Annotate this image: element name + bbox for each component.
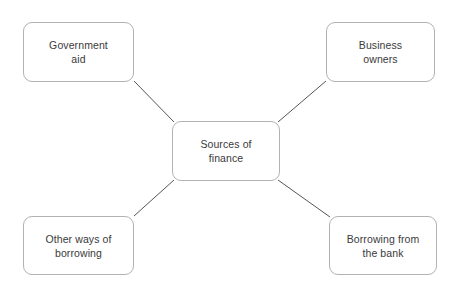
node-borrowing-from-the-bank-label: Borrowing from the bank xyxy=(343,232,424,260)
node-other-ways-of-borrowing-label: Other ways of borrowing xyxy=(41,232,115,260)
connector-center-other-borrowing xyxy=(134,180,174,216)
node-center-label: Sources of finance xyxy=(196,137,255,165)
connector-center-business-owners xyxy=(278,81,326,122)
connector-center-government-aid xyxy=(134,81,174,122)
node-government-aid-label: Government aid xyxy=(45,38,112,66)
node-business-owners-label: Business owners xyxy=(355,38,406,66)
sources-of-finance-diagram: Government aid Business owners Sources o… xyxy=(0,0,457,291)
connector-center-bank-borrowing xyxy=(278,180,330,217)
node-government-aid[interactable]: Government aid xyxy=(23,22,134,82)
node-center-sources-of-finance[interactable]: Sources of finance xyxy=(172,121,280,181)
node-other-ways-of-borrowing[interactable]: Other ways of borrowing xyxy=(23,216,134,275)
node-borrowing-from-the-bank[interactable]: Borrowing from the bank xyxy=(329,216,437,275)
node-business-owners[interactable]: Business owners xyxy=(326,22,435,82)
